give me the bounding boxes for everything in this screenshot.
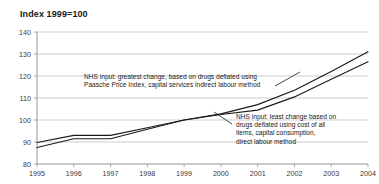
- y-axis-tick-labels: 8090100110120130140: [19, 28, 31, 169]
- annotation-upper-line-2: Paasche Price Index, capital services in…: [84, 81, 260, 89]
- annotation-lower-line-1: NHS input: least change based on: [236, 113, 336, 121]
- axis-lines: [34, 32, 368, 167]
- x-tick-label: 1995: [29, 169, 45, 178]
- chart-container: Index 1999=100 8090100110120130140 19951…: [0, 0, 379, 184]
- x-tick-label: 2001: [250, 169, 266, 178]
- x-tick-label: 2003: [323, 169, 339, 178]
- annotation-greatest-change: NHS input: greatest change, based on dru…: [84, 73, 260, 89]
- annotation-lower-line-2: drugs deflated using cost of all: [236, 121, 336, 129]
- y-tick-label: 140: [19, 28, 31, 37]
- x-tick-label: 1997: [103, 169, 119, 178]
- x-tick-label: 1996: [66, 169, 82, 178]
- y-tick-label: 90: [23, 138, 31, 147]
- y-tick-label: 130: [19, 50, 31, 59]
- x-tick-label: 1999: [176, 169, 192, 178]
- chart-plot-area: 8090100110120130140 19951996199719981999…: [0, 0, 379, 184]
- y-tick-label: 80: [23, 160, 31, 169]
- annotation-least-change: NHS input: least change based on drugs d…: [236, 113, 336, 146]
- x-axis-tick-labels: 1995199619971998199920002001200220032004: [29, 169, 376, 178]
- annotation-lower-line-3: items, capital consumption,: [236, 129, 336, 137]
- annotation-upper-line-1: NHS input: greatest change, based on dru…: [84, 73, 260, 81]
- y-tick-label: 120: [19, 72, 31, 81]
- annotation-lower-line-4: direct labour method: [236, 138, 336, 146]
- y-tick-label: 100: [19, 116, 31, 125]
- y-tick-label: 110: [20, 94, 31, 103]
- x-tick-label: 2004: [360, 169, 376, 178]
- x-tick-label: 2000: [213, 169, 229, 178]
- x-tick-label: 2002: [286, 169, 302, 178]
- x-tick-label: 1998: [139, 169, 155, 178]
- annotation-leader-line: [275, 72, 300, 86]
